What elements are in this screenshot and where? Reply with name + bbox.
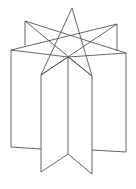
star-stroke: [11, 24, 117, 50]
diagram-svg: [0, 0, 136, 189]
screen-top-edge: [11, 50, 68, 57]
folding-screen: [11, 50, 126, 174]
inner-right-panel: [68, 76, 92, 174]
screen-top-edge: [68, 53, 126, 57]
inner-left-panel: [41, 75, 68, 172]
star-screen-diagram: [0, 0, 136, 189]
star-stroke: [72, 8, 92, 76]
right-outer-panel: [92, 53, 126, 152]
seven-point-star: [11, 8, 126, 76]
left-outer-panel: [11, 50, 41, 149]
screen-top-edge: [68, 57, 92, 76]
